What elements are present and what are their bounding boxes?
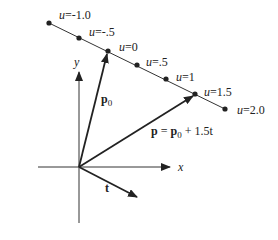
point-u-0: u=0 — [105, 40, 137, 54]
p-equation-label: p = p0 + 1.5t — [151, 124, 213, 140]
svg-text:u=.5: u=.5 — [146, 55, 168, 69]
point-u-neg1: u=-1.0 — [46, 8, 90, 26]
point-u-15: u=1.5 — [192, 85, 231, 99]
svg-text:u=0: u=0 — [119, 40, 138, 54]
svg-text:u=1.5: u=1.5 — [204, 85, 232, 99]
svg-text:u=2.0: u=2.0 — [237, 103, 265, 117]
svg-text:u=1: u=1 — [176, 70, 195, 84]
svg-text:u=-.5: u=-.5 — [89, 25, 115, 39]
point-u-2: u=2.0 — [222, 103, 264, 117]
p0-label: p0 — [101, 92, 113, 108]
point-u-neg05: u=-.5 — [76, 25, 114, 41]
point-u-1: u=1 — [163, 70, 194, 84]
t-label: t — [105, 181, 109, 195]
y-axis-label: y — [73, 55, 80, 69]
parametric-line-diagram: x y p0 t p = p0 + 1.5t u=-1.0 u=-.5 u=0 … — [0, 0, 278, 240]
p0-vector — [79, 54, 107, 167]
x-axis-label: x — [177, 160, 184, 174]
svg-text:u=-1.0: u=-1.0 — [59, 8, 91, 22]
